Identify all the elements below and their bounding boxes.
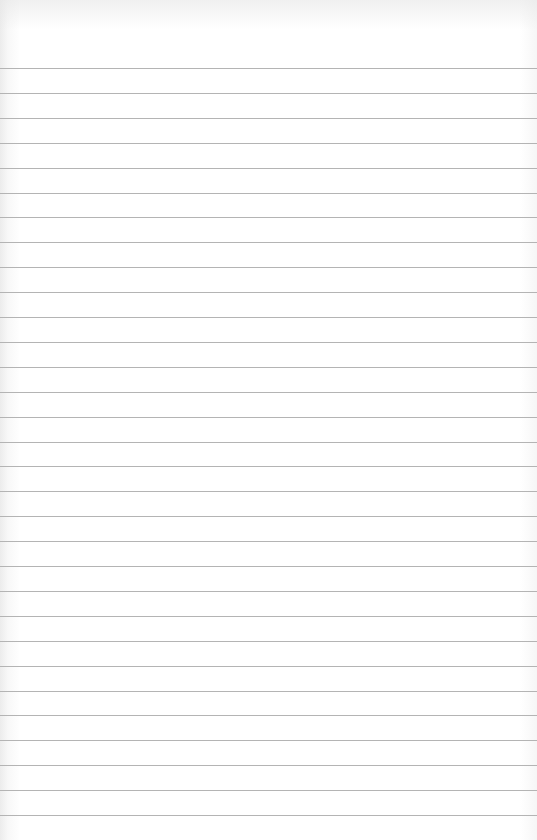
ruled-line [0, 591, 537, 592]
ruled-line [0, 267, 537, 268]
ruled-line [0, 641, 537, 642]
ruled-line [0, 815, 537, 816]
ruled-line [0, 790, 537, 791]
ruled-line [0, 691, 537, 692]
ruled-line [0, 317, 537, 318]
ruled-line [0, 68, 537, 69]
ruled-line [0, 666, 537, 667]
ruled-line [0, 740, 537, 741]
ruled-line [0, 143, 537, 144]
ruled-line [0, 616, 537, 617]
ruled-line [0, 466, 537, 467]
ruled-line [0, 442, 537, 443]
ruled-line [0, 93, 537, 94]
ruled-line [0, 765, 537, 766]
ruled-line [0, 566, 537, 567]
ruled-line [0, 193, 537, 194]
ruled-line [0, 118, 537, 119]
ruled-line [0, 491, 537, 492]
ruled-line [0, 715, 537, 716]
ruled-line [0, 168, 537, 169]
ruled-line [0, 292, 537, 293]
ruled-line [0, 217, 537, 218]
ruled-line [0, 516, 537, 517]
ruled-line [0, 367, 537, 368]
ruled-line [0, 242, 537, 243]
ruled-line [0, 392, 537, 393]
ruled-paper [0, 0, 537, 840]
ruled-line [0, 342, 537, 343]
ruled-line [0, 541, 537, 542]
ruled-line [0, 417, 537, 418]
